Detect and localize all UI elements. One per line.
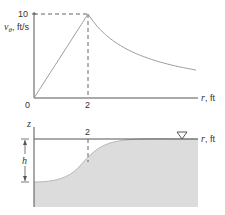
h-label: h [22,155,27,166]
water-region [34,139,198,207]
free-surface-plot: h z 2 r, ft [20,118,215,207]
x-tick-label-2: 2 [85,100,90,110]
velocity-plot: 10 vθ, ft/s 0 2 r, ft [4,9,215,110]
vortex-diagram: 10 vθ, ft/s 0 2 r, ft h z 2 r, ft [0,0,225,215]
x-axis-label: r, ft [201,92,215,103]
h-arrow-down [23,176,27,181]
z-axis-label: z [26,118,31,129]
velocity-profile-curve [34,14,196,98]
r-axis-label: r, ft [201,133,215,144]
r2-tick-label: 2 [85,127,90,137]
h-arrow-up [23,140,27,145]
y-tick-label-10: 10 [18,9,28,19]
free-surface-symbol-icon [177,132,187,139]
x-tick-label-0: 0 [25,100,30,110]
y-axis-label: vθ, ft/s [4,21,29,34]
